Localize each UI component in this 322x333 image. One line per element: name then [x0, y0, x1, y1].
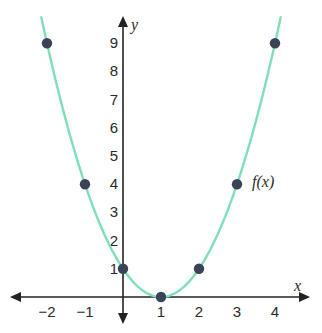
y-tick-label: 3: [110, 203, 118, 220]
x-tick-label: 4: [271, 303, 279, 320]
x-tick-label: 3: [233, 303, 241, 320]
data-point: [80, 179, 90, 189]
data-point: [42, 38, 52, 48]
y-tick-label: 9: [110, 34, 118, 51]
y-tick-label: 1: [110, 260, 118, 277]
y-axis: y 123456789: [110, 16, 139, 324]
y-tick-labels: 123456789: [110, 34, 118, 277]
function-label: f(x): [252, 173, 274, 191]
parabola-chart: x −2−11234 y 123456789 f(x): [0, 0, 322, 333]
data-point: [156, 292, 166, 302]
y-tick-label: 5: [110, 147, 118, 164]
y-axis-label: y: [129, 16, 139, 34]
x-axis-label: x: [293, 277, 301, 294]
y-axis-arrow-up-icon: [118, 16, 128, 27]
data-point: [232, 179, 242, 189]
data-point: [194, 264, 204, 274]
y-tick-label: 7: [110, 91, 118, 108]
data-point: [118, 264, 128, 274]
x-tick-label: −1: [76, 303, 93, 320]
data-point: [270, 38, 280, 48]
x-tick-label: 2: [195, 303, 203, 320]
x-tick-labels: −2−11234: [38, 303, 279, 320]
y-tick-label: 8: [110, 62, 118, 79]
data-points: [42, 38, 280, 302]
y-axis-arrow-down-icon: [118, 313, 128, 324]
y-tick-label: 4: [110, 175, 118, 192]
function-curve: [41, 17, 280, 297]
x-tick-label: 1: [157, 303, 165, 320]
x-axis-arrow-left-icon: [10, 292, 21, 302]
x-tick-label: −2: [38, 303, 55, 320]
y-tick-label: 6: [110, 119, 118, 136]
